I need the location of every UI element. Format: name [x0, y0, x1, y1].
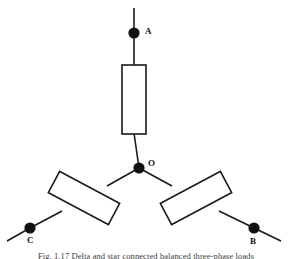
resistor-phase-b	[160, 171, 231, 224]
node-a	[128, 27, 139, 38]
node-label-o: O	[148, 159, 155, 168]
node-label-b: B	[250, 237, 256, 246]
wire-node-o-to-resistor-b	[139, 168, 172, 186]
wire-resistor-b-to-node-b	[219, 211, 254, 228]
resistor-group	[48, 65, 231, 225]
node-c	[24, 222, 35, 233]
figure-caption: Fig. 1.17 Delta and star connected balan…	[0, 251, 292, 259]
node-o	[133, 162, 144, 173]
node-label-a: A	[145, 27, 152, 36]
node-b	[248, 222, 259, 233]
star-connection-diagram	[0, 0, 292, 259]
node-label-c: C	[27, 236, 34, 245]
resistor-phase-c	[48, 171, 119, 224]
resistor-phase-a	[122, 65, 146, 134]
figure-container: A O C B Fig. 1.17 Delta and star connect…	[0, 0, 292, 259]
